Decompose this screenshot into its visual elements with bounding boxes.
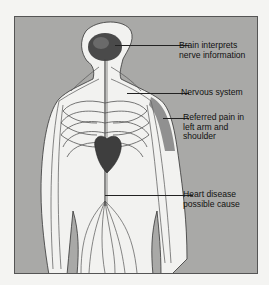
heart-leader-line [105,195,193,196]
brain-leader-line [115,45,189,46]
label-referred-pain: Referred pain in left arm and shoulder [183,113,244,142]
label-brain: Brain interprets nerve information [179,41,245,60]
diagram-panel: Brain interprets nerve information Nervo… [14,16,258,274]
nervous-system-leader-line [127,93,189,94]
label-nervous-system: Nervous system [181,88,243,98]
label-heart: Heart disease possible cause [183,190,240,209]
